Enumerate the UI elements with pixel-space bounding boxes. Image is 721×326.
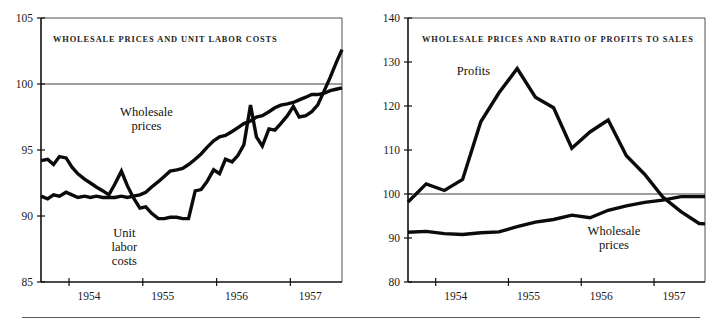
chart-title: WHOLESALE PRICES AND RATIO OF PROFITS TO… [422, 35, 694, 44]
y-axis-tick-label: 95 [22, 144, 34, 156]
series-annotation-line: Profits [457, 64, 490, 78]
series-annotation-unit-labor-costs: Unitlaborcosts [112, 226, 139, 268]
data-series-wholesale-prices [408, 197, 705, 235]
series-annotation-wholesale-prices: Wholesaleprices [120, 105, 173, 133]
x-axis-tick-label: 1954 [444, 290, 467, 302]
series-annotation-line: Unit [113, 226, 136, 240]
y-axis-tick-label: 100 [383, 188, 401, 200]
y-axis-tick-label: 80 [389, 276, 401, 288]
y-axis-tick-label: 90 [22, 210, 34, 222]
y-axis-tick-label: 105 [16, 12, 34, 24]
x-axis-tick-label: 1956 [590, 290, 613, 302]
figure-two-panel-line-charts: 8590951001051954195519561957WHOLESALE PR… [0, 0, 721, 326]
y-axis-tick-label: 140 [383, 12, 401, 24]
right-chart-svg: 80901001101201301401954195519561957WHOLE… [370, 0, 721, 326]
series-annotation-profits: Profits [457, 64, 490, 78]
series-annotation-line: costs [112, 254, 137, 268]
x-axis-tick-label: 1955 [517, 290, 540, 302]
series-annotation-line: Wholesale [588, 224, 641, 238]
y-axis-tick-label: 85 [22, 276, 34, 288]
chart-panel-wholesale-prices-and-ratio-of-profits-to-sales: 80901001101201301401954195519561957WHOLE… [370, 0, 721, 326]
series-annotation-line: labor [112, 240, 139, 254]
y-axis-tick-label: 120 [383, 100, 401, 112]
x-axis-tick-label: 1954 [78, 290, 101, 302]
series-annotation-line: prices [132, 119, 162, 133]
x-axis-tick-label: 1956 [225, 290, 248, 302]
x-axis-tick-label: 1957 [663, 290, 686, 302]
chart-title: WHOLESALE PRICES AND UNIT LABOR COSTS [53, 35, 278, 44]
bottom-horizontal-rule [22, 317, 700, 318]
y-axis-tick-label: 100 [16, 78, 34, 90]
y-axis-tick-label: 110 [383, 144, 400, 156]
x-axis-tick-label: 1955 [151, 290, 174, 302]
data-series-unit-labor-costs [41, 50, 342, 219]
series-annotation-line: prices [599, 238, 629, 252]
chart-panel-wholesale-prices-and-unit-labor-costs: 8590951001051954195519561957WHOLESALE PR… [0, 0, 370, 326]
series-annotation-wholesale-prices: Wholesaleprices [588, 224, 641, 252]
left-chart-svg: 8590951001051954195519561957WHOLESALE PR… [0, 0, 370, 326]
series-annotation-line: Wholesale [120, 105, 173, 119]
y-axis-tick-label: 130 [383, 56, 401, 68]
x-axis-tick-label: 1957 [299, 290, 322, 302]
y-axis-tick-label: 90 [389, 232, 401, 244]
data-series-wholesale-prices [41, 88, 342, 199]
